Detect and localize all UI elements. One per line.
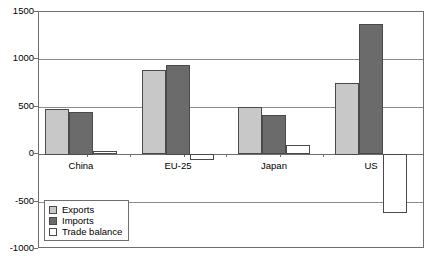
bar-exports-china xyxy=(45,109,69,155)
y-axis-tick-label: 500 xyxy=(0,101,34,111)
legend-swatch-icon xyxy=(49,206,57,214)
x-axis-tick-mark xyxy=(280,154,281,157)
chart-container: 150010005000-500-1000 ChinaEU-25JapanUS … xyxy=(0,0,433,265)
bar-trade-balance-china xyxy=(93,151,117,154)
legend-swatch-icon xyxy=(49,228,57,236)
zero-axis-line xyxy=(39,154,423,155)
chart-legend: ExportsImportsTrade balance xyxy=(44,200,129,241)
bar-imports-japan xyxy=(262,115,286,154)
bar-imports-us xyxy=(359,24,383,154)
y-axis-tick-mark xyxy=(34,248,38,249)
legend-item-imports[interactable]: Imports xyxy=(49,215,122,226)
legend-item-exports[interactable]: Exports xyxy=(49,204,122,215)
y-axis-tick-label: 1000 xyxy=(0,53,34,63)
plot-area: ChinaEU-25JapanUS ExportsImportsTrade ba… xyxy=(38,11,424,248)
legend-label: Exports xyxy=(62,204,94,215)
legend-item-trade-balance[interactable]: Trade balance xyxy=(49,226,122,237)
category-label-china: China xyxy=(25,160,137,171)
category-label-japan: Japan xyxy=(218,160,330,171)
bar-exports-us xyxy=(335,83,359,155)
x-axis-tick-mark xyxy=(130,154,131,157)
x-axis-tick-mark xyxy=(226,154,227,157)
bar-imports-eu-25 xyxy=(166,65,190,155)
y-axis-tick-label: 1500 xyxy=(0,6,34,16)
y-axis-tick-label: -500 xyxy=(0,196,34,206)
bar-exports-japan xyxy=(238,107,262,154)
legend-label: Imports xyxy=(62,215,94,226)
legend-swatch-icon xyxy=(49,217,57,225)
bar-trade-balance-japan xyxy=(286,145,310,154)
y-axis-tick-label: -1000 xyxy=(0,243,34,253)
bar-imports-china xyxy=(69,112,93,155)
bar-exports-eu-25 xyxy=(142,70,166,154)
y-axis-tick-label: 0 xyxy=(0,148,34,158)
x-axis-tick-mark xyxy=(323,154,324,157)
category-label-us: US xyxy=(315,160,427,171)
legend-label: Trade balance xyxy=(62,226,122,237)
